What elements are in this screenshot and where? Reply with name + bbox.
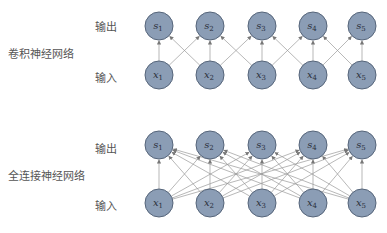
fc-output-node: s3 — [248, 131, 276, 159]
conv-input-node: x3 — [248, 61, 276, 89]
edge — [221, 36, 252, 65]
conv-input-node: x1 — [145, 61, 173, 89]
edge — [323, 37, 351, 65]
edge — [272, 156, 304, 192]
fc-output-node: s1 — [145, 131, 173, 159]
fc-input-node: x1 — [145, 189, 173, 217]
edge — [220, 36, 251, 65]
conv-output-node: s4 — [299, 12, 327, 40]
edge — [169, 36, 199, 65]
edge — [169, 156, 201, 192]
edge — [272, 36, 302, 65]
edge — [271, 156, 303, 192]
conv-output-node: s2 — [196, 12, 224, 40]
fc-output-node: s2 — [196, 131, 224, 159]
conv-output-node: s1 — [145, 12, 173, 40]
fc-input-node: x3 — [248, 189, 276, 217]
edge — [324, 37, 352, 65]
conv-output-node: s3 — [248, 12, 276, 40]
edge — [170, 36, 200, 65]
fc-input-node: x4 — [299, 189, 327, 217]
fc-input-node: x5 — [348, 189, 376, 217]
edge — [323, 156, 353, 192]
fc-output-node: s5 — [348, 131, 376, 159]
fc-input-node: x2 — [196, 189, 224, 217]
conv-input-node: x2 — [196, 61, 224, 89]
edge — [168, 156, 200, 192]
conv-input-node: x5 — [348, 61, 376, 89]
edge — [220, 156, 253, 192]
conv-input-node: x4 — [299, 61, 327, 89]
fc-output-node: s4 — [299, 131, 327, 159]
edge — [273, 36, 303, 65]
conv-output-node: s5 — [348, 12, 376, 40]
network-diagram: s1s2s3s4s5x1x2x3x4x5s1s2s3s4s5x1x2x3x4x5 — [0, 0, 387, 233]
edge — [322, 156, 352, 192]
